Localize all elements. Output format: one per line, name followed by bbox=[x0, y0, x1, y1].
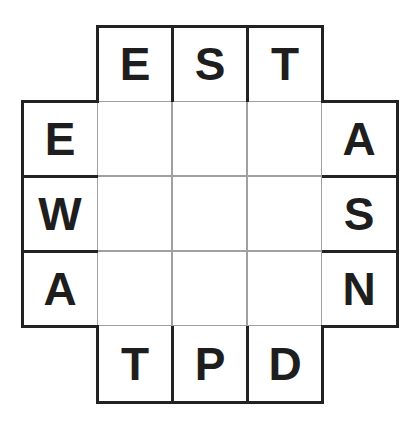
grid-cell-r3-c2[interactable] bbox=[172, 251, 247, 326]
corner-line bbox=[21, 325, 99, 328]
corner-line bbox=[96, 25, 99, 103]
right-clue-3: N bbox=[323, 253, 395, 325]
corner-line bbox=[96, 325, 99, 404]
left-clue-2: W bbox=[24, 178, 96, 250]
grid-cell-r1-c1[interactable] bbox=[97, 101, 172, 176]
bottom-clue-1: T bbox=[99, 328, 171, 400]
grid-cell-r2-c1[interactable] bbox=[97, 176, 172, 251]
corner-line bbox=[321, 25, 324, 103]
bottom-clue-3: D bbox=[249, 328, 321, 400]
grid-cell-r3-c1[interactable] bbox=[97, 251, 172, 326]
top-clue-2: S bbox=[174, 28, 246, 100]
grid-cell-r3-c3[interactable] bbox=[247, 251, 322, 326]
corner-line bbox=[321, 325, 324, 404]
top-clue-1: E bbox=[99, 28, 171, 100]
grid-cell-r1-c2[interactable] bbox=[172, 101, 247, 176]
grid-cell-r2-c2[interactable] bbox=[172, 176, 247, 251]
bottom-clue-2: P bbox=[174, 328, 246, 400]
grid-cell-r1-c3[interactable] bbox=[247, 101, 322, 176]
top-clue-3: T bbox=[249, 28, 321, 100]
corner-line bbox=[21, 100, 99, 103]
left-clue-3: A bbox=[24, 253, 96, 325]
word-puzzle-board: E S T T P D E W A A S N bbox=[0, 0, 419, 425]
right-clue-2: S bbox=[323, 178, 395, 250]
left-clue-1: E bbox=[24, 103, 96, 175]
right-clue-1: A bbox=[323, 103, 395, 175]
corner-line bbox=[321, 100, 399, 103]
corner-line bbox=[321, 325, 399, 328]
grid-cell-r2-c3[interactable] bbox=[247, 176, 322, 251]
